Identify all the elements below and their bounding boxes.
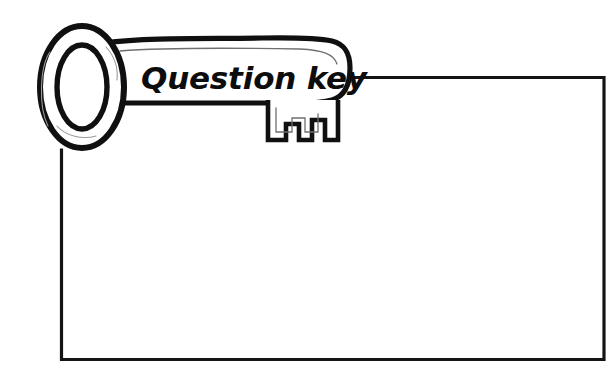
question-key-card: Question key — [0, 0, 615, 370]
content-area[interactable] — [64, 80, 602, 358]
